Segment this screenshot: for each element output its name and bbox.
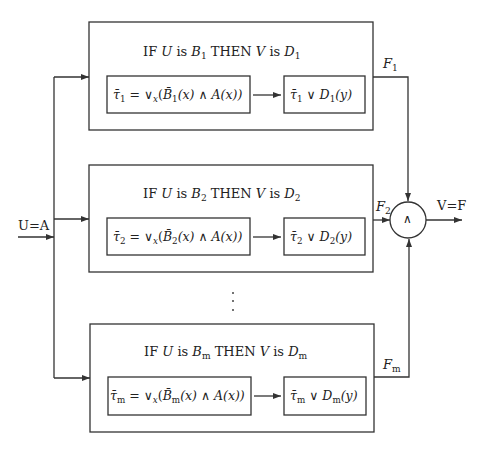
- output-label-2: F2: [376, 200, 391, 213]
- formula-right-m: τ̄m ∨ Dm(y): [290, 390, 358, 403]
- output-label-m: Fm: [383, 358, 401, 371]
- rule-box-m: [90, 324, 374, 432]
- rule-text-1: IF U is B1 THEN V is D1: [143, 45, 301, 58]
- output-line-1: [373, 77, 408, 201]
- and-symbol: ∧: [403, 213, 412, 225]
- formula-right-2: τ̄2 ∨ D2(y): [290, 231, 352, 244]
- formula-right-1: τ̄1 ∨ D1(y): [290, 89, 352, 102]
- rule-text-2: IF U is B2 THEN V is D2: [143, 187, 301, 200]
- rule-text-m: IF U is Bm THEN V is Dm: [144, 345, 307, 358]
- diagram-canvas: [0, 0, 486, 451]
- output-label-1: F1: [383, 57, 398, 70]
- input-label: U=A: [18, 219, 49, 232]
- formula-left-1: τ̄1 = ∨x(B̄1(x) ∧ A(x)): [113, 89, 242, 102]
- output-label: V=F: [437, 199, 466, 212]
- formula-left-2: τ̄2 = ∨x(B̄2(x) ∧ A(x)): [113, 231, 242, 244]
- formula-left-m: τ̄m = ∨x(B̄m(x) ∧ A(x)): [110, 390, 245, 403]
